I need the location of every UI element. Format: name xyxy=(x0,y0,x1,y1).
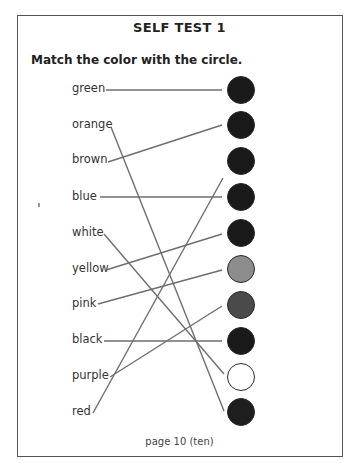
color-circle-3 xyxy=(228,148,255,175)
match-line-brown xyxy=(108,125,222,162)
color-circle-1 xyxy=(228,77,255,104)
match-line-orange xyxy=(111,127,224,411)
color-circle-4 xyxy=(228,184,255,211)
color-circle-7 xyxy=(228,292,255,319)
page-number: page 10 (ten) xyxy=(0,436,359,447)
color-circles xyxy=(228,77,255,426)
color-circle-9 xyxy=(228,364,255,391)
matching-lines xyxy=(93,90,224,413)
color-circle-5 xyxy=(228,220,255,247)
matching-area xyxy=(0,0,359,469)
match-line-red xyxy=(93,178,223,413)
color-circle-2 xyxy=(228,112,255,139)
match-line-yellow xyxy=(106,234,222,270)
color-circle-10 xyxy=(228,399,255,426)
color-circle-8 xyxy=(228,328,255,355)
color-circle-6 xyxy=(228,256,255,283)
match-line-white xyxy=(104,234,224,374)
